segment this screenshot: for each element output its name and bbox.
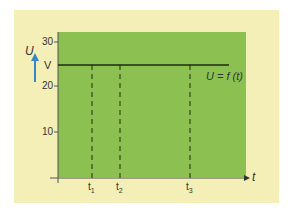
x-tick-t3: t3 xyxy=(186,181,193,194)
x-axis-label: t xyxy=(252,170,255,184)
curve-label: U = f (t) xyxy=(206,70,243,82)
x-tick-t1: t1 xyxy=(88,181,95,194)
tick-label-10: 10 xyxy=(42,126,53,137)
voltage-time-chart xyxy=(0,0,294,213)
y-axis-label: U xyxy=(25,44,34,58)
tick-label-20: 20 xyxy=(42,80,53,91)
tick-label-30: 30 xyxy=(42,36,53,47)
plot-area xyxy=(58,32,246,177)
x-axis-arrow-icon xyxy=(244,175,250,181)
x-tick-t2: t2 xyxy=(116,181,123,194)
tick-label-v: V xyxy=(44,59,51,71)
